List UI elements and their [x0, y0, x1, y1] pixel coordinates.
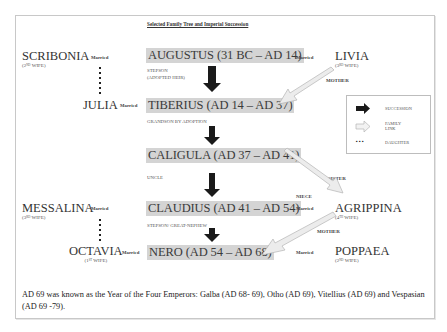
succession-arrow-icon	[204, 126, 220, 145]
succession-arrow-icon	[204, 228, 220, 242]
daughter-dots-icon	[99, 219, 101, 241]
connector-layer	[0, 0, 447, 332]
legend-dots-icon: ▪ ▪ ▪	[356, 139, 364, 144]
legend: SUCCESSION FAMILY LINK ▪ ▪ ▪ DAUGHTER	[346, 95, 431, 154]
legend-label-daughter: DAUGHTER	[385, 140, 409, 146]
legend-label-link: LINK	[385, 126, 396, 132]
daughter-dots-icon	[99, 67, 101, 94]
legend-label-succession: SUCCESSION	[385, 106, 412, 112]
succession-arrow-icon	[203, 66, 221, 92]
legend-succession-arrow-icon	[356, 103, 370, 114]
family-link-arrow-icon	[279, 67, 334, 104]
succession-arrow-icon	[204, 173, 220, 197]
legend-family-arrow-icon	[356, 121, 370, 132]
footer-note: AD 69 was known as the Year of the Four …	[22, 289, 427, 313]
family-link-arrow-icon	[262, 212, 336, 255]
family-link-arrow-icon	[284, 148, 343, 193]
